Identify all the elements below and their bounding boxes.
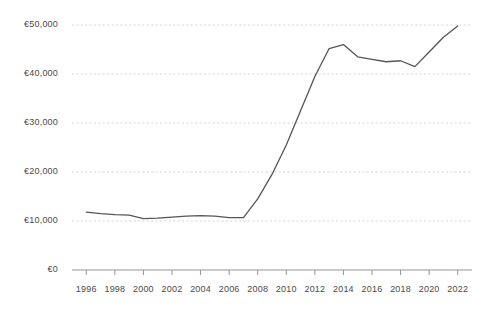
- x-axis-tick-label: 1996: [76, 284, 97, 294]
- line-chart: €0€10,000€20,000€30,000€40,000€50,000 19…: [0, 0, 496, 316]
- x-axis-tick-label: 2014: [333, 284, 354, 294]
- x-axis-tick-label: 1998: [104, 284, 125, 294]
- x-axis-tick-label: 2016: [362, 284, 383, 294]
- gridlines-group: [72, 25, 472, 221]
- y-axis-tick-label: €50,000: [24, 19, 58, 29]
- x-axis-labels-group: 1996199820002002200420062008201020122014…: [76, 284, 468, 294]
- x-axis-tick-label: 2000: [133, 284, 154, 294]
- x-axis-tick-label: 2012: [304, 284, 325, 294]
- y-axis-tick-label: €40,000: [24, 68, 58, 78]
- chart-canvas: €0€10,000€20,000€30,000€40,000€50,000 19…: [0, 0, 496, 316]
- x-axis-tick-label: 2008: [247, 284, 268, 294]
- y-axis-tick-label: €20,000: [24, 166, 58, 176]
- x-axis-tick-label: 2018: [390, 284, 411, 294]
- x-axis-tick-label: 2022: [447, 284, 468, 294]
- x-axis-baseline-group: [72, 270, 472, 275]
- data-series-group: [86, 26, 457, 219]
- y-axis-tick-label: €0: [48, 264, 58, 274]
- y-axis-tick-label: €10,000: [24, 215, 58, 225]
- y-axis-labels-group: €0€10,000€20,000€30,000€40,000€50,000: [24, 19, 58, 274]
- y-axis-tick-label: €30,000: [24, 117, 58, 127]
- x-axis-tick-label: 2002: [162, 284, 183, 294]
- x-axis-tick-label: 2010: [276, 284, 297, 294]
- x-axis-tick-label: 2006: [219, 284, 240, 294]
- x-axis-tick-label: 2020: [419, 284, 440, 294]
- data-line-series-0: [86, 26, 457, 219]
- x-axis-tick-label: 2004: [190, 284, 211, 294]
